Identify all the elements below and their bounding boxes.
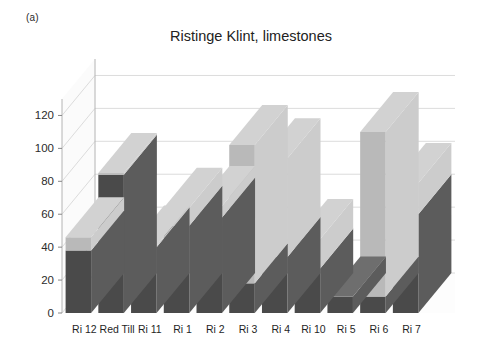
x-axis-category-label: Ri 3 <box>239 323 258 335</box>
bar-front-lower <box>66 250 92 313</box>
x-axis-category-label: Red Till <box>100 323 135 335</box>
y-axis-tick-label: 120 <box>35 109 54 121</box>
x-axis-category-label: Ri 6 <box>370 323 389 335</box>
x-axis-category-label: Ri 11 <box>138 323 162 335</box>
x-axis-category-label: Ri 5 <box>337 323 356 335</box>
y-axis-tick-label: 40 <box>41 241 54 253</box>
bar-front-upper <box>66 237 92 250</box>
bar-front-upper <box>98 173 124 175</box>
bars-group <box>66 92 452 313</box>
x-axis-category-label: Ri 2 <box>206 323 225 335</box>
x-axis-category-label: Ri 7 <box>402 323 421 335</box>
axes <box>58 99 62 313</box>
x-axis-category-label: Ri 12 <box>72 323 97 335</box>
y-axis-tick-label: 80 <box>41 175 54 187</box>
x-axis-category-label: Ri 10 <box>301 323 326 335</box>
x-axis-category-label: Ri 4 <box>271 323 290 335</box>
y-axis-tick-label: 60 <box>41 208 54 220</box>
y-axis-tick-label: 100 <box>35 142 54 154</box>
x-axis-category-label: Ri 1 <box>173 323 192 335</box>
x-axis-category-labels: Ri 12Red TillRi 11Ri 1Ri 2Ri 3Ri 4Ri 10R… <box>72 323 421 335</box>
figure-panel: (a) Ristinge Klint, limestones 020406080… <box>0 0 502 363</box>
y-axis-tick-label: 0 <box>48 307 54 319</box>
y-axis-tick-label: 20 <box>41 274 54 286</box>
y-axis-tick-labels: 020406080100120 <box>35 109 54 319</box>
bar-chart-plot: 020406080100120 Ri 12Red TillRi 11Ri 1Ri… <box>0 0 502 363</box>
